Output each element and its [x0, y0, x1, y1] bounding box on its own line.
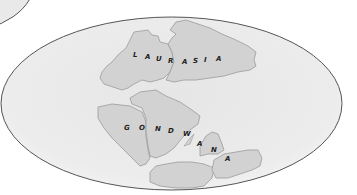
- map-canvas: L A U R A S I A G O N D W: [0, 0, 357, 195]
- adjacent-globe-fragment: [0, 0, 35, 32]
- supercontinent-map: L A U R A S I A G O N D W: [0, 0, 357, 195]
- gondwana-antarctica: [150, 162, 214, 188]
